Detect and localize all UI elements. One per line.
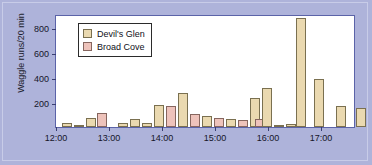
legend-item-devils-glen: Devil's Glen	[83, 27, 145, 40]
x-tick-label: 17:00	[310, 133, 333, 143]
legend-label: Devil's Glen	[97, 29, 145, 39]
x-tick-label: 16:00	[257, 133, 280, 143]
bar	[130, 119, 140, 127]
bar	[274, 125, 284, 128]
bar	[336, 106, 346, 127]
x-tick-mark	[268, 127, 269, 131]
bar	[74, 125, 84, 127]
y-axis-label: Waggle runs/20 min	[16, 1, 26, 105]
x-tick-label: 15:00	[204, 133, 227, 143]
chart-figure: Waggle runs/20 min 200400600800 12:0013:…	[0, 0, 372, 165]
bar	[296, 18, 306, 127]
x-tick-label: 14:00	[151, 133, 174, 143]
plot-area: 200400600800 12:0013:0014:0015:0016:0017…	[55, 15, 355, 128]
x-tick-label: 12:00	[45, 133, 68, 143]
x-tick-mark	[56, 127, 57, 131]
bar	[314, 79, 324, 127]
bar	[226, 119, 236, 127]
bar	[62, 123, 72, 127]
legend-label: Broad Cove	[97, 42, 145, 52]
y-tick-mark	[52, 79, 56, 80]
y-tick-label: 400	[34, 74, 49, 84]
legend-item-broad-cove: Broad Cove	[83, 40, 145, 53]
x-tick-mark	[321, 127, 322, 131]
legend-swatch-icon	[83, 29, 92, 38]
y-tick-mark	[52, 104, 56, 105]
bar	[166, 106, 176, 127]
x-tick-mark	[162, 127, 163, 131]
x-tick-label: 13:00	[98, 133, 121, 143]
bar	[154, 105, 164, 127]
bar	[202, 116, 212, 127]
bar	[86, 118, 96, 127]
bar	[118, 123, 128, 127]
bar	[178, 93, 188, 127]
bar	[190, 114, 200, 127]
bar	[142, 123, 152, 127]
x-tick-mark	[109, 127, 110, 131]
y-tick-label: 800	[34, 24, 49, 34]
bar	[214, 118, 224, 127]
x-tick-mark	[215, 127, 216, 131]
bar	[97, 113, 107, 127]
chart-legend: Devil's Glen Broad Cove	[78, 23, 152, 57]
y-tick-mark	[52, 29, 56, 30]
bar	[238, 120, 248, 127]
bar	[356, 108, 366, 127]
y-tick-label: 600	[34, 49, 49, 59]
bar	[262, 88, 272, 127]
y-tick-mark	[52, 54, 56, 55]
bar	[286, 124, 296, 127]
legend-swatch-icon	[83, 42, 92, 51]
y-tick-label: 200	[34, 99, 49, 109]
